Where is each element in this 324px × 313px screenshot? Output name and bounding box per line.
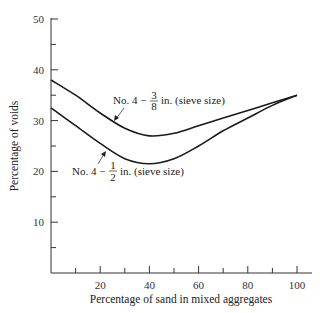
svg-text:in. (sieve size): in. (sieve size) xyxy=(161,94,225,107)
svg-text:8: 8 xyxy=(151,100,157,112)
y-tick-label: 10 xyxy=(33,216,45,228)
y-axis-label: Percentage of voids xyxy=(8,100,21,191)
series-line-3-8-in xyxy=(51,80,297,136)
annotation-lower: No. 4 − 1 2 in. (sieve size) xyxy=(72,151,184,183)
y-tick-label: 40 xyxy=(33,64,45,76)
svg-text:in. (sieve size): in. (sieve size) xyxy=(120,165,184,178)
x-axis-label: Percentage of sand in mixed aggregates xyxy=(90,293,273,306)
series-lines xyxy=(51,80,297,164)
x-ticks: 20406080100 xyxy=(76,266,306,291)
arrow-icon xyxy=(101,151,106,157)
svg-text:No. 4 −: No. 4 − xyxy=(72,165,105,177)
y-tick-label: 20 xyxy=(33,165,45,177)
annotation-upper: No. 4 − 3 8 in. (sieve size) xyxy=(113,89,225,121)
y-tick-label: 50 xyxy=(33,13,45,25)
svg-text:1: 1 xyxy=(110,159,116,171)
y-ticks: 1020304050 xyxy=(33,13,58,248)
x-tick-label: 20 xyxy=(95,279,107,291)
x-tick-label: 60 xyxy=(193,279,205,291)
x-tick-label: 100 xyxy=(289,279,306,291)
chart: 1020304050 20406080100 Percentage of san… xyxy=(0,0,324,313)
svg-text:2: 2 xyxy=(110,171,116,183)
y-tick-label: 30 xyxy=(33,115,45,127)
svg-text:No. 4 −: No. 4 − xyxy=(113,94,146,106)
x-tick-label: 80 xyxy=(242,279,254,291)
x-tick-label: 40 xyxy=(144,279,156,291)
